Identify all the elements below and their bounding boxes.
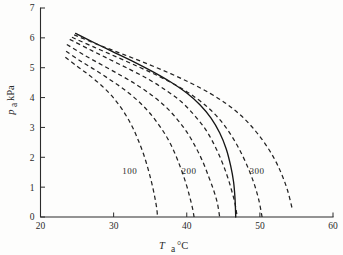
annotation-300: 300 [250, 166, 265, 176]
curve-curve-2 [66, 51, 194, 217]
svg-text:p: p [5, 109, 16, 115]
x-tick-label: 20 [36, 221, 46, 231]
y-tick-label: 7 [30, 3, 35, 13]
svg-text:T: T [159, 240, 166, 251]
data-curves [65, 33, 292, 217]
y-tick-label: 3 [30, 123, 35, 133]
curve-curve-solid [76, 33, 236, 217]
y-tick-label: 2 [30, 153, 35, 163]
y-tick-labels: 01234567 [30, 3, 35, 222]
svg-text:a: a [9, 102, 19, 107]
y-tick-label: 6 [30, 33, 35, 43]
y-tick-label: 5 [30, 63, 35, 73]
curve-curve-3 [67, 44, 220, 217]
y-axis-title: p a kPa [5, 85, 19, 116]
x-tick-labels: 2030405060 [36, 221, 338, 231]
x-axis-title: T a °C [159, 240, 188, 254]
annotation-200: 200 [182, 166, 197, 176]
chart-figure: 2030405060 01234567 100200300 T a °C p a… [0, 0, 343, 255]
x-tick-label: 50 [255, 221, 265, 231]
y-tick-label: 0 [30, 212, 35, 222]
y-tick-label: 4 [30, 93, 35, 103]
y-tick-label: 1 [30, 183, 35, 193]
x-tick-label: 40 [182, 221, 192, 231]
chart-plot-area: 2030405060 01234567 100200300 T a °C p a… [0, 0, 343, 255]
x-tick-label: 30 [109, 221, 119, 231]
svg-text:kPa: kPa [5, 85, 16, 101]
curve-annotations: 100200300 [122, 166, 264, 176]
x-tick-label: 60 [328, 221, 338, 231]
curve-curve-6 [74, 35, 292, 208]
annotation-100: 100 [122, 166, 137, 176]
svg-text:a: a [171, 244, 176, 254]
svg-text:°C: °C [177, 240, 188, 251]
